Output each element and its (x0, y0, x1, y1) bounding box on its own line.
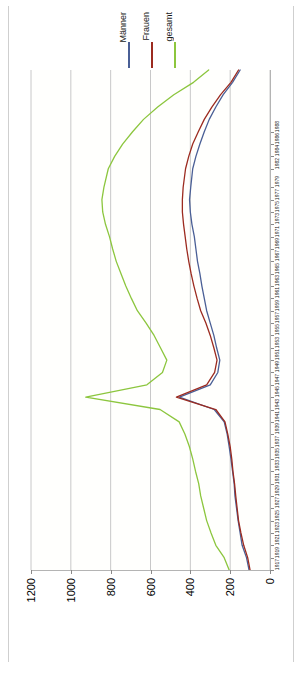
value-axis-label: 200 (224, 578, 236, 596)
legend-label: Frauen (141, 12, 151, 41)
legend-entry-maenner: Männer (118, 12, 140, 70)
year-axis-label: 1947 (275, 374, 280, 385)
year-axis-label: 1955 (275, 324, 280, 335)
year-axis-label: 1931 (275, 473, 280, 484)
year-axis-label: 1986 (275, 133, 280, 144)
year-axis-label: 1951 (275, 349, 280, 360)
year-axis-label: 1929 (275, 485, 280, 496)
year-axis-label: 1957 (275, 312, 280, 323)
series-line-gesamt (86, 70, 229, 570)
series-line-männer (179, 70, 249, 570)
year-axis-label: 1961 (275, 287, 280, 298)
year-axis-label: 1939 (275, 423, 280, 434)
year-axis-label: 1921 (275, 534, 280, 545)
year-axis-label: 1982 (275, 158, 280, 169)
year-axis-label: 1945 (275, 386, 280, 397)
year-tick (271, 508, 274, 509)
value-tick (230, 570, 231, 574)
year-axis-label: 1969 (275, 238, 280, 249)
year-tick (271, 434, 274, 435)
year-axis-label: 1977 (275, 189, 280, 200)
value-tick (31, 570, 32, 574)
legend-entry-frauen: Frauen (141, 12, 163, 70)
year-axis-label: 1973 (275, 213, 280, 224)
value-axis-label: 1200 (25, 578, 37, 602)
year-tick (271, 187, 274, 188)
year-axis-label: 1967 (275, 250, 280, 261)
legend-swatch-gesamt (174, 42, 176, 68)
year-axis-label: 1919 (275, 547, 280, 558)
year-axis-label: 1984 (275, 145, 280, 156)
value-tick (71, 570, 72, 574)
value-tick (151, 570, 152, 574)
year-axis-label: 1971 (275, 226, 280, 237)
legend: Männer Frauen gesamt (118, 12, 188, 70)
value-axis-label: 800 (105, 578, 117, 596)
series-group (31, 70, 270, 570)
year-axis-label: 1959 (275, 300, 280, 311)
year-axis-label: 1963 (275, 275, 280, 286)
year-tick (271, 471, 274, 472)
year-axis-label: 1988 (275, 121, 280, 132)
year-axis-label: 1925 (275, 510, 280, 521)
year-axis-label: 1923 (275, 522, 280, 533)
legend-swatch-frauen (151, 42, 153, 68)
year-axis-label: 1937 (275, 436, 280, 447)
value-axis-label: 1000 (65, 578, 77, 602)
value-tick (190, 570, 191, 574)
legend-label: gesamt (164, 12, 174, 42)
legend-entry-gesamt: gesamt (164, 12, 186, 70)
value-axis-label: 400 (184, 578, 196, 596)
year-axis-label: 1941 (275, 411, 280, 422)
figure-border-right (293, 6, 294, 662)
value-axis-label: 0 (264, 578, 276, 584)
value-tick (111, 570, 112, 574)
year-axis-label: 1965 (275, 263, 280, 274)
year-axis-label: 1949 (275, 361, 280, 372)
plot-area (31, 70, 270, 570)
chart-figure: 120010008006004002000 191719191921192319… (0, 0, 302, 687)
legend-swatch-maenner (128, 42, 130, 68)
series-line-frauen (176, 70, 250, 570)
year-axis-label: 1943 (275, 399, 280, 410)
year-axis-label: 1935 (275, 448, 280, 459)
legend-label: Männer (118, 12, 128, 43)
year-axis-label: 1927 (275, 497, 280, 508)
year-tick (271, 397, 274, 398)
year-axis-label: 1933 (275, 460, 280, 471)
figure-border-left (8, 6, 9, 662)
year-axis-label: 1975 (275, 201, 280, 212)
year-tick (271, 570, 274, 571)
year-axis-label: 1953 (275, 337, 280, 348)
year-axis-label: 1917 (275, 559, 280, 570)
year-axis-label: 1979 (275, 176, 280, 187)
value-axis-label: 600 (145, 578, 157, 596)
